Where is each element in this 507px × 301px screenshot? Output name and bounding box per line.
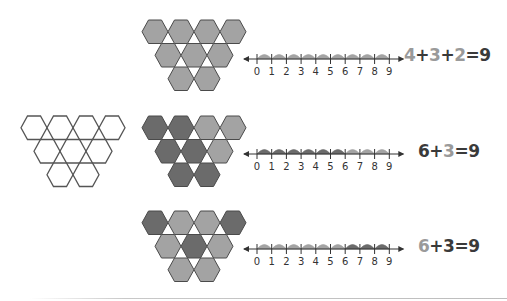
equation-row-2: 6+3=9 xyxy=(418,141,480,161)
equation-part: + xyxy=(429,236,443,256)
hop-arc xyxy=(345,150,360,155)
hexagon xyxy=(73,116,99,140)
equation-part: =9 xyxy=(454,236,479,256)
equation-row-3: 6+3=9 xyxy=(418,236,480,256)
equation-part: 6 xyxy=(418,236,429,256)
hexagon xyxy=(34,140,60,164)
hexagon xyxy=(207,235,233,259)
tick-label: 9 xyxy=(386,256,392,267)
hexagon xyxy=(47,163,73,187)
hexagon xyxy=(207,44,233,68)
equation-part: + xyxy=(429,141,443,161)
hex-figure-row-3 xyxy=(142,211,246,282)
hop-arc xyxy=(257,55,272,60)
tick-label: 9 xyxy=(386,161,392,172)
tick-label: 4 xyxy=(313,66,319,77)
hop-arc xyxy=(316,245,331,250)
hop-arc xyxy=(272,150,287,155)
tick-label: 3 xyxy=(298,256,304,267)
hop-arc xyxy=(286,245,301,250)
hexagon xyxy=(155,140,181,164)
number-line-row-1: 0123456789 xyxy=(243,54,404,77)
hexagon xyxy=(142,20,168,44)
equation-row-1: 4+3+2=9 xyxy=(404,45,491,65)
hexagon xyxy=(181,235,207,259)
tick-label: 3 xyxy=(298,66,304,77)
hexagon xyxy=(168,211,194,235)
equation-part: + xyxy=(440,45,454,65)
hop-arc xyxy=(286,55,301,60)
tick-label: 1 xyxy=(269,66,275,77)
tick-label: 5 xyxy=(327,66,333,77)
tick-label: 7 xyxy=(357,256,363,267)
arrow-right-icon xyxy=(398,246,404,252)
hop-arc xyxy=(375,55,390,60)
hop-arc xyxy=(360,55,375,60)
tick-label: 6 xyxy=(342,161,348,172)
equation-part: + xyxy=(415,45,429,65)
arrow-left-icon xyxy=(243,246,249,252)
tick-label: 0 xyxy=(254,161,260,172)
hop-arc xyxy=(257,150,272,155)
hop-arc xyxy=(272,245,287,250)
equation-part: 2 xyxy=(454,45,465,65)
hop-arc xyxy=(360,245,375,250)
number-line-row-2: 0123456789 xyxy=(243,149,404,172)
hexagon xyxy=(155,235,181,259)
equation-part: 3 xyxy=(443,141,454,161)
hexagon xyxy=(220,20,246,44)
tick-label: 4 xyxy=(313,161,319,172)
hop-arc xyxy=(331,55,346,60)
arrow-left-icon xyxy=(243,56,249,62)
arrow-right-icon xyxy=(398,151,404,157)
hexagon xyxy=(194,20,220,44)
hexagon xyxy=(194,211,220,235)
hop-arc xyxy=(286,150,301,155)
hexagon xyxy=(194,163,220,187)
arrow-left-icon xyxy=(243,151,249,157)
hexagon xyxy=(207,140,233,164)
hop-arc xyxy=(345,245,360,250)
hexagon xyxy=(220,116,246,140)
hexagon xyxy=(181,44,207,68)
hop-arc xyxy=(360,150,375,155)
hop-arc xyxy=(331,150,346,155)
equation-part: 3 xyxy=(429,45,440,65)
hex-figure-row-1 xyxy=(142,20,246,91)
hop-arc xyxy=(301,150,316,155)
hop-arc xyxy=(301,245,316,250)
tick-label: 5 xyxy=(327,161,333,172)
hexagon xyxy=(194,67,220,91)
hop-arc xyxy=(272,55,287,60)
hop-arc xyxy=(257,245,272,250)
tick-label: 0 xyxy=(254,66,260,77)
tick-label: 8 xyxy=(371,161,377,172)
hexagon xyxy=(142,116,168,140)
tick-label: 6 xyxy=(342,66,348,77)
hex-figure-row-2 xyxy=(142,116,246,187)
hexagon xyxy=(60,140,86,164)
hop-arc xyxy=(316,150,331,155)
tick-label: 8 xyxy=(371,66,377,77)
tick-label: 9 xyxy=(386,66,392,77)
tick-label: 2 xyxy=(283,256,289,267)
hexagon xyxy=(155,44,181,68)
hexagon xyxy=(194,116,220,140)
bottom-divider xyxy=(30,298,507,299)
tick-label: 8 xyxy=(371,256,377,267)
hexagon xyxy=(86,140,112,164)
hop-arc xyxy=(316,55,331,60)
hexagon xyxy=(99,116,125,140)
tick-label: 7 xyxy=(357,161,363,172)
tick-label: 2 xyxy=(283,66,289,77)
equation-part: 6 xyxy=(418,141,429,161)
hexagon xyxy=(168,163,194,187)
hexagon xyxy=(220,211,246,235)
hexagon xyxy=(194,258,220,282)
tick-label: 7 xyxy=(357,66,363,77)
hexagon xyxy=(168,20,194,44)
hop-arc xyxy=(331,245,346,250)
tick-label: 1 xyxy=(269,256,275,267)
hop-arc xyxy=(375,245,390,250)
hop-arc xyxy=(301,55,316,60)
